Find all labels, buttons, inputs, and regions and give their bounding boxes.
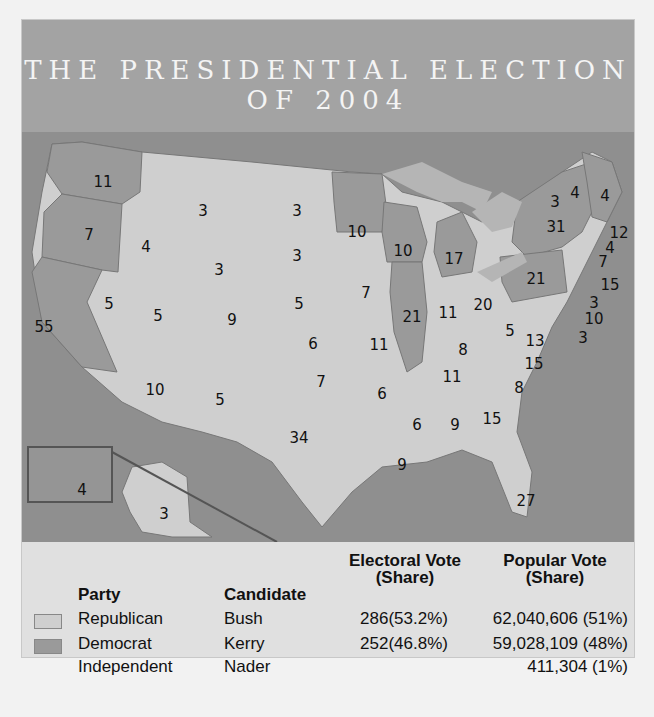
state-ev-label: 9 <box>227 311 237 329</box>
state-ev-label: 27 <box>516 492 535 510</box>
state-ev-label: 20 <box>473 296 492 314</box>
row-party: Republican <box>78 609 163 629</box>
callout-ev-label: 4 <box>600 187 610 205</box>
state-ev-label: 15 <box>524 355 543 373</box>
state-ev-label: 5 <box>505 322 515 340</box>
row-candidate: Kerry <box>224 634 265 654</box>
callout-ev-label: 7 <box>598 253 608 271</box>
state-ev-label: 6 <box>308 335 318 353</box>
state-ev-label: 7 <box>316 373 326 391</box>
state-ev-label: 6 <box>377 385 387 403</box>
state-ev-label: 55 <box>34 318 53 336</box>
header-electoral-line1: Electoral Vote <box>340 552 470 569</box>
header-electoral-line2: (Share) <box>340 569 470 586</box>
state-ev-label: 10 <box>347 223 366 241</box>
state-ev-label: 9 <box>450 416 460 434</box>
callout-ev-label: 10 <box>584 310 603 328</box>
state-ev-label: 5 <box>153 307 163 325</box>
election-map-figure: THE PRESIDENTIAL ELECTION OF 2004 <box>21 19 635 658</box>
republican-swatch <box>34 614 62 629</box>
row-party: Independent <box>78 657 173 677</box>
state-ev-label: 15 <box>482 410 501 428</box>
state-ev-label: 8 <box>458 341 468 359</box>
state-ev-label: 3 <box>292 247 302 265</box>
callout-ev-label: 15 <box>600 276 619 294</box>
state-ev-label: 17 <box>444 250 463 268</box>
state-ev-label: 7 <box>84 226 94 244</box>
header-popular-line2: (Share) <box>500 569 610 586</box>
state-ev-label: 5 <box>294 295 304 313</box>
state-ev-label: 5 <box>215 391 225 409</box>
callout-ev-label: 4 <box>570 184 580 202</box>
state-ev-label: 21 <box>402 308 421 326</box>
state-ev-label: 9 <box>397 456 407 474</box>
callout-ev-label: 3 <box>578 329 588 347</box>
state-ev-label: 3 <box>198 202 208 220</box>
state-ev-label: 11 <box>442 368 461 386</box>
title-line-2: OF 2004 <box>22 84 634 116</box>
state-ev-label: 3 <box>159 505 169 523</box>
header-candidate: Candidate <box>224 586 314 603</box>
state-ev-label: 4 <box>77 481 87 499</box>
state-ev-label: 10 <box>393 242 412 260</box>
state-ev-label: 11 <box>93 173 112 191</box>
map-title: THE PRESIDENTIAL ELECTION OF 2004 <box>22 20 634 132</box>
state-ev-label: 31 <box>546 218 565 236</box>
row-electoral: 252(46.8%) <box>348 634 460 654</box>
header-party: Party <box>78 586 138 603</box>
state-ev-label: 13 <box>525 332 544 350</box>
us-map: 11 7 55 4 3 3 3 3 5 5 9 5 6 10 5 7 34 10… <box>22 132 634 542</box>
results-legend: Party Candidate Electoral Vote (Share) P… <box>22 542 634 657</box>
row-popular: 62,040,606 (51%) <box>462 609 628 629</box>
state-ev-label: 3 <box>214 261 224 279</box>
row-party: Democrat <box>78 634 152 654</box>
state-ev-label: 3 <box>292 202 302 220</box>
state-ev-label: 6 <box>412 416 422 434</box>
state-ev-label: 11 <box>438 304 457 322</box>
header-popular-line1: Popular Vote <box>500 552 610 569</box>
header-popular-vote: Popular Vote (Share) <box>500 552 610 586</box>
row-popular: 59,028,109 (48%) <box>462 634 628 654</box>
state-ev-label: 10 <box>145 381 164 399</box>
state-ev-label: 11 <box>369 336 388 354</box>
row-candidate: Nader <box>224 657 270 677</box>
title-line-1: THE PRESIDENTIAL ELECTION <box>22 54 634 86</box>
state-ev-label: 4 <box>141 238 151 256</box>
state-ev-label: 5 <box>104 295 114 313</box>
state-ev-label: 8 <box>514 379 524 397</box>
state-ev-label: 34 <box>289 429 308 447</box>
democrat-swatch <box>34 639 62 654</box>
row-electoral: 286(53.2%) <box>348 609 460 629</box>
row-popular: 411,304 (1%) <box>462 657 628 677</box>
row-candidate: Bush <box>224 609 263 629</box>
state-ev-label: 21 <box>526 270 545 288</box>
state-ev-label: 7 <box>361 284 371 302</box>
header-electoral-vote: Electoral Vote (Share) <box>340 552 470 586</box>
callout-ev-label: 3 <box>550 193 560 211</box>
